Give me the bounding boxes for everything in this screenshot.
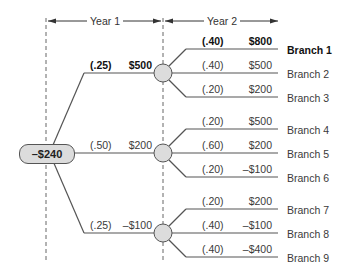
chance-node-3 — [154, 224, 172, 242]
branch1-value: $800 — [232, 35, 272, 47]
branch8-prob: (.40) — [202, 219, 224, 231]
branch9-label: Branch 9 — [287, 252, 329, 264]
year1-node1-value: $500 — [118, 59, 152, 71]
branch5-value: $200 — [232, 139, 272, 151]
branch7-label: Branch 7 — [287, 204, 329, 216]
year1-node1-prob: (.25) — [90, 59, 112, 71]
chance-node-2 — [154, 144, 172, 162]
branch3-value: $200 — [232, 83, 272, 95]
arrow-left-icon — [48, 19, 56, 24]
branch6-value: –$100 — [232, 163, 272, 175]
branch2-prob: (.40) — [202, 59, 224, 71]
arrow-left-icon — [165, 19, 173, 24]
root-decision-node: –$240 — [19, 144, 75, 164]
branch9-value: –$400 — [232, 243, 272, 255]
branch3-prob: (.20) — [202, 83, 224, 95]
year1-node3-value: –$100 — [112, 219, 152, 231]
branch5-prob: (.60) — [202, 139, 224, 151]
chance-node-1 — [154, 64, 172, 82]
branch6-prob: (.20) — [202, 163, 224, 175]
branch3-label: Branch 3 — [287, 92, 329, 104]
branch2-label: Branch 2 — [287, 68, 329, 80]
branch9-prob: (.40) — [202, 243, 224, 255]
year2-label: Year 2 — [204, 15, 240, 27]
year1-node2-value: $200 — [118, 139, 152, 151]
branch1-prob: (.40) — [202, 35, 224, 47]
branch7-prob: (.20) — [202, 195, 224, 207]
branch2-value: $500 — [232, 59, 272, 71]
branch5-label: Branch 5 — [287, 148, 329, 160]
year1-label: Year 1 — [87, 15, 123, 27]
arrow-right-icon — [270, 19, 278, 24]
branch7-value: $200 — [232, 195, 272, 207]
year1-node3-prob: (.25) — [90, 219, 112, 231]
branch1-label: Branch 1 — [287, 44, 332, 56]
arrow-right-icon — [153, 19, 161, 24]
year1-node2-prob: (.50) — [90, 139, 112, 151]
branch6-label: Branch 6 — [287, 172, 329, 184]
branch4-prob: (.20) — [202, 115, 224, 127]
branch4-value: $500 — [232, 115, 272, 127]
branch4-label: Branch 4 — [287, 124, 329, 136]
branch8-value: –$100 — [232, 219, 272, 231]
branch8-label: Branch 8 — [287, 228, 329, 240]
